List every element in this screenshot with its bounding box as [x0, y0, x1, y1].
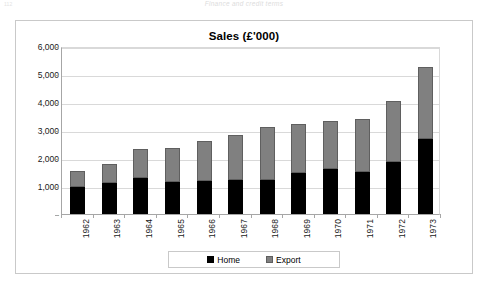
bar-segment-home[interactable]	[386, 162, 401, 214]
x-tick-label: 1971	[365, 219, 375, 238]
bar-segment-export[interactable]	[386, 101, 401, 161]
x-tick-mark	[124, 214, 125, 218]
chart-title: Sales (£'000)	[16, 30, 472, 42]
bar-segment-home[interactable]	[323, 169, 338, 214]
x-tick-mark	[187, 214, 188, 218]
bar-segment-export[interactable]	[418, 67, 433, 139]
x-tick-label: 1965	[176, 219, 186, 238]
legend-item-export[interactable]: Export	[266, 255, 301, 265]
y-tick-mark	[55, 47, 59, 48]
x-tick-mark	[314, 214, 315, 218]
plot-area	[61, 47, 440, 215]
bar-segment-export[interactable]	[165, 148, 180, 183]
bar-segment-export[interactable]	[228, 135, 243, 181]
x-tick-mark	[61, 214, 62, 218]
y-tick-mark	[55, 131, 59, 132]
y-tick-mark	[55, 75, 59, 76]
x-tick-label: 1963	[112, 219, 122, 238]
page-header: 112 Finance and credit terms	[0, 0, 488, 14]
legend-item-home[interactable]: Home	[207, 255, 240, 265]
y-tick-mark	[55, 159, 59, 160]
bar-segment-export[interactable]	[197, 141, 212, 182]
bar-segment-home[interactable]	[102, 183, 117, 214]
bar-segment-export[interactable]	[133, 149, 148, 178]
running-head: Finance and credit terms	[0, 0, 488, 7]
legend-swatch-home-icon	[207, 256, 214, 263]
y-tick-label: 1,000	[17, 182, 59, 192]
x-tick-label: 1962	[81, 219, 91, 238]
x-tick-mark	[93, 214, 94, 218]
bar-segment-export[interactable]	[260, 127, 275, 180]
x-tick-label: 1973	[428, 219, 438, 238]
y-tick-label: -	[17, 210, 59, 220]
x-tick-mark	[282, 214, 283, 218]
bars-layer	[62, 48, 439, 214]
bar-segment-home[interactable]	[197, 181, 212, 214]
y-tick-mark	[55, 103, 59, 104]
y-tick-label: 2,000	[17, 154, 59, 164]
x-tick-mark	[345, 214, 346, 218]
bar-segment-home[interactable]	[228, 180, 243, 214]
y-tick-label: 5,000	[17, 70, 59, 80]
bar-segment-export[interactable]	[355, 119, 370, 172]
x-tick-label: 1972	[397, 219, 407, 238]
bar-segment-export[interactable]	[323, 121, 338, 169]
y-axis: 6,0005,0004,0003,0002,0001,000-	[16, 47, 59, 215]
x-tick-mark	[156, 214, 157, 218]
x-axis-labels: 1962196319641965196619671968196919701971…	[61, 219, 440, 253]
bar-segment-export[interactable]	[102, 164, 117, 184]
y-tick-label: 3,000	[17, 126, 59, 136]
y-tick-mark	[55, 187, 59, 188]
y-tick-mark	[55, 215, 59, 216]
bar-segment-home[interactable]	[291, 173, 306, 214]
x-tick-label: 1970	[333, 219, 343, 238]
bar-segment-export[interactable]	[291, 124, 306, 172]
y-tick-label: 4,000	[17, 98, 59, 108]
x-tick-mark	[408, 214, 409, 218]
legend-label-home: Home	[217, 255, 240, 265]
chart-legend: Home Export	[168, 251, 340, 268]
x-tick-label: 1968	[270, 219, 280, 238]
x-tick-mark	[251, 214, 252, 218]
x-tick-label: 1969	[302, 219, 312, 238]
bar-segment-home[interactable]	[418, 139, 433, 214]
x-tick-mark	[377, 214, 378, 218]
legend-label-export: Export	[276, 255, 301, 265]
x-tick-label: 1966	[207, 219, 217, 238]
bar-segment-home[interactable]	[260, 180, 275, 214]
x-tick-label: 1967	[239, 219, 249, 238]
bar-segment-export[interactable]	[70, 171, 85, 188]
chart-container: Sales (£'000) 6,0005,0004,0003,0002,0001…	[15, 20, 473, 274]
bar-segment-home[interactable]	[355, 172, 370, 214]
bar-segment-home[interactable]	[70, 187, 85, 214]
x-tick-label: 1964	[144, 219, 154, 238]
legend-swatch-export-icon	[266, 256, 273, 263]
x-tick-mark	[440, 214, 441, 218]
y-tick-label: 6,000	[17, 42, 59, 52]
x-tick-mark	[219, 214, 220, 218]
bar-segment-home[interactable]	[165, 182, 180, 214]
bar-segment-home[interactable]	[133, 178, 148, 214]
